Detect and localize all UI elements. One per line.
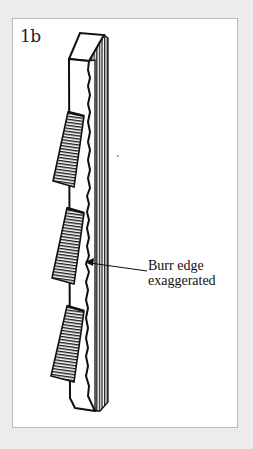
speck bbox=[117, 155, 119, 157]
side-face bbox=[89, 35, 108, 411]
callout-arrow bbox=[85, 258, 147, 271]
scraper-illustration bbox=[0, 0, 253, 449]
callout-line-1: Burr edge bbox=[148, 258, 216, 273]
burr-edge-callout: Burr edge exaggerated bbox=[148, 258, 216, 288]
callout-line-2: exaggerated bbox=[148, 273, 216, 288]
